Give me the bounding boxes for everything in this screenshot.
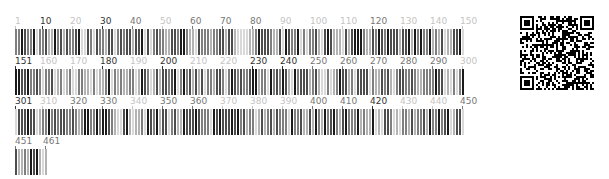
sequence-bar — [153, 29, 155, 55]
position-label: 151 — [15, 56, 32, 66]
sequence-bar — [258, 109, 260, 135]
sequence-bar — [228, 69, 230, 95]
sequence-bar — [75, 29, 77, 55]
sequence-bar — [450, 69, 452, 95]
sequence-bar — [141, 69, 143, 95]
position-labels: 3013103203303403503603703803904004104204… — [15, 96, 515, 108]
sequence-bar — [99, 69, 101, 95]
sequence-bar — [45, 69, 47, 95]
sequence-bar — [198, 69, 200, 95]
position-label: 330 — [100, 96, 117, 106]
sequence-bar — [399, 69, 401, 95]
sequence-bar — [66, 29, 68, 55]
sequence-bar — [270, 109, 272, 135]
sequence-bar — [69, 109, 71, 135]
sequence-bar — [306, 29, 308, 55]
sequence-bar — [183, 69, 185, 95]
sequence-bar — [39, 29, 41, 55]
sequence-bar — [405, 69, 407, 95]
sequence-bar — [453, 109, 455, 135]
sequence-bar — [246, 109, 248, 135]
sequence-bar — [324, 109, 326, 135]
sequence-bar — [216, 29, 218, 55]
sequence-bar — [144, 29, 146, 55]
sequence-bar — [363, 109, 365, 135]
sequence-bar — [165, 29, 167, 55]
sequence-bar — [342, 109, 344, 135]
sequence-bar — [426, 109, 428, 135]
sequence-bar — [288, 69, 290, 95]
sequence-bar — [264, 29, 266, 55]
sequence-bar — [117, 69, 119, 95]
sequence-bar — [138, 109, 140, 135]
sequence-bar — [276, 69, 278, 95]
sequence-bar — [132, 109, 134, 135]
sequence-bar — [369, 29, 371, 55]
sequence-bar — [72, 29, 74, 55]
sequence-bar — [183, 109, 185, 135]
sequence-bar — [360, 109, 362, 135]
sequence-bar — [360, 69, 362, 95]
sequence-bar — [246, 29, 248, 55]
sequence-bar — [57, 69, 59, 95]
sequence-bar — [300, 69, 302, 95]
sequence-bar — [402, 69, 404, 95]
sequence-bar — [231, 29, 233, 55]
sequence-bar — [354, 109, 356, 135]
sequence-bar — [27, 29, 29, 55]
sequence-bar — [432, 29, 434, 55]
sequence-bar — [399, 29, 401, 55]
sequence-bar — [225, 29, 227, 55]
sequence-bar — [303, 69, 305, 95]
sequence-bar — [297, 69, 299, 95]
sequence-bar — [201, 109, 203, 135]
sequence-bar — [228, 29, 230, 55]
sequence-bar — [282, 109, 284, 135]
sequence-bar — [162, 29, 164, 55]
sequence-bar — [114, 29, 116, 55]
sequence-bar — [219, 69, 221, 95]
sequence-bar — [96, 29, 98, 55]
sequence-bar — [195, 69, 197, 95]
sequence-bar — [381, 29, 383, 55]
sequence-bar — [99, 109, 101, 135]
sequence-bar — [363, 29, 365, 55]
sequence-bar — [15, 109, 17, 135]
sequence-bar — [345, 109, 347, 135]
sequence-bar — [213, 109, 215, 135]
sequence-bar — [186, 29, 188, 55]
sequence-bar — [51, 69, 53, 95]
sequence-bar — [378, 29, 380, 55]
sequence-bar — [24, 149, 26, 175]
sequence-bar — [57, 109, 59, 135]
sequence-bar — [258, 69, 260, 95]
sequence-bar — [420, 69, 422, 95]
sequence-bar — [327, 29, 329, 55]
sequence-bar — [60, 29, 62, 55]
position-label: 90 — [280, 16, 291, 26]
sequence-bar — [357, 29, 359, 55]
sequence-bar — [276, 109, 278, 135]
sequence-bar — [219, 29, 221, 55]
sequence-bar — [72, 69, 74, 95]
sequence-bar — [285, 69, 287, 95]
sequence-bar — [453, 69, 455, 95]
sequence-bar — [396, 69, 398, 95]
sequence-bar — [222, 69, 224, 95]
sequence-bar — [264, 109, 266, 135]
sequence-bar — [195, 109, 197, 135]
position-label: 350 — [160, 96, 177, 106]
sequence-bar — [285, 109, 287, 135]
cropped-header-text — [0, 0, 609, 4]
sequence-bar — [180, 29, 182, 55]
position-label: 110 — [340, 16, 357, 26]
position-label: 120 — [370, 16, 387, 26]
sequence-bar — [321, 109, 323, 135]
sequence-bar — [399, 109, 401, 135]
sequence-bar — [249, 109, 251, 135]
sequence-bar — [444, 69, 446, 95]
sequence-bar — [423, 69, 425, 95]
position-label: 450 — [460, 96, 477, 106]
position-label: 220 — [220, 56, 237, 66]
sequence-bar — [27, 149, 29, 175]
